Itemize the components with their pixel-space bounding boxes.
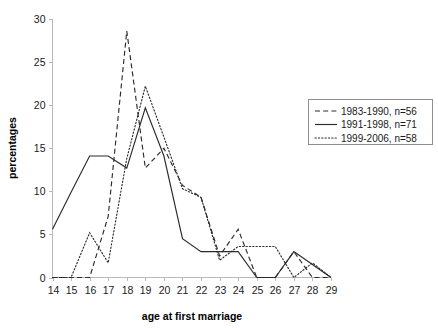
x-tick-label: 21 [177,284,189,296]
x-tick-label: 17 [103,284,115,296]
y-tick-label: 15 [34,142,46,154]
legend-label-2: 1991-1998, n=71 [341,119,417,130]
chart-container: 051015202530 percentages 141516171819202… [0,0,438,328]
x-tick-label: 25 [252,284,264,296]
x-axis: 14151617181920212223242526272829 age at … [48,278,338,323]
series-line-3 [53,86,332,277]
x-tick-label: 18 [122,284,134,296]
x-tick-label: 23 [215,284,227,296]
series-lines [53,31,332,277]
line-chart: 051015202530 percentages 141516171819202… [0,0,438,328]
legend-label-3: 1999-2006, n=58 [341,133,417,144]
x-tick-label: 29 [326,284,338,296]
x-tick-label: 14 [48,284,60,296]
x-tick-label: 28 [307,284,319,296]
x-tick-label: 24 [233,284,245,296]
x-tick-label: 27 [289,284,301,296]
y-tick-label: 25 [34,56,46,68]
y-tick-label: 20 [34,99,46,111]
x-tick-label: 22 [196,284,208,296]
legend: 1983-1990, n=561991-1998, n=711999-2006,… [309,100,433,145]
series-line-1 [53,31,332,277]
x-tick-label: 26 [270,284,282,296]
legend-label-1: 1983-1990, n=56 [341,106,417,117]
y-axis-title: percentages [6,117,18,179]
y-tick-labels: 051015202530 [34,13,46,284]
y-tick-marks [49,20,53,279]
x-tick-label: 19 [140,284,152,296]
x-tick-label: 16 [85,284,97,296]
y-tick-label: 10 [34,185,46,197]
x-axis-title: age at first marriage [142,310,243,322]
y-tick-label: 30 [34,13,46,25]
x-tick-label: 15 [66,284,78,296]
y-tick-label: 0 [40,272,46,284]
y-tick-label: 5 [40,228,46,240]
x-tick-marks [54,278,332,282]
y-axis: 051015202530 percentages [6,13,53,284]
x-tick-labels: 14151617181920212223242526272829 [48,284,338,296]
x-tick-label: 20 [159,284,171,296]
